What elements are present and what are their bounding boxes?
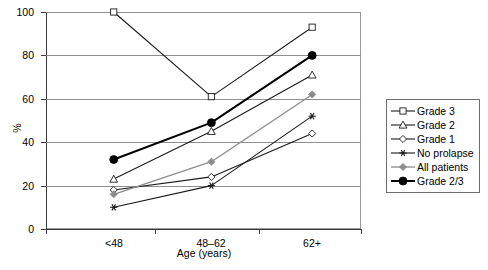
y-tick-mark (41, 55, 46, 56)
y-tick-mark (41, 186, 46, 187)
x-tick-mark (259, 229, 260, 234)
legend-item-grade-3: Grade 3 (390, 104, 475, 118)
y-tick-label: 20 (0, 181, 34, 191)
y-tick-label: 100 (0, 7, 34, 17)
legend-marker-open-square-icon (390, 104, 416, 118)
legend: Grade 3Grade 2Grade 1No prolapseAll pati… (386, 99, 480, 193)
y-tick-label: 40 (0, 137, 34, 147)
gridline-100 (46, 12, 361, 13)
data-point-open-square (400, 108, 406, 114)
legend-marker-solid-diamond-icon (390, 160, 416, 174)
y-tick-mark (41, 99, 46, 100)
legend-label: No prolapse (416, 146, 474, 160)
y-tick-label: 0 (0, 224, 34, 234)
legend-label: Grade 3 (416, 104, 455, 118)
data-point-solid-circle (399, 177, 407, 185)
x-tick-mark (46, 229, 47, 234)
data-point-solid-diamond (399, 163, 406, 170)
gridline-60 (46, 99, 361, 100)
legend-item-no-prolapse: No prolapse (390, 146, 475, 160)
y-axis-title: % (11, 123, 23, 132)
gridline-40 (46, 142, 361, 143)
data-point-asterisk (399, 150, 406, 156)
gridline-80 (46, 55, 361, 56)
y-tick-mark (41, 12, 46, 13)
legend-marker-solid-circle-icon (390, 174, 416, 188)
gridline-20 (46, 186, 361, 187)
x-axis-line (46, 229, 362, 230)
legend-item-grade-2-3: Grade 2/3 (390, 174, 475, 188)
legend-item-all-patients: All patients (390, 160, 475, 174)
y-tick-label: 80 (0, 50, 34, 60)
legend-label: All patients (416, 160, 468, 174)
y-axis-line (46, 12, 47, 230)
legend-marker-open-triangle-icon (390, 118, 416, 132)
legend-item-grade-2: Grade 2 (390, 118, 475, 132)
data-point-open-diamond (399, 135, 406, 142)
legend-marker-open-diamond-icon (390, 132, 416, 146)
chart-figure: 020406080100 <4848–6262+ % Age (years) G… (0, 0, 488, 270)
legend-label: Grade 2/3 (416, 174, 464, 188)
legend-label: Grade 2 (416, 118, 455, 132)
y-tick-label: 60 (0, 94, 34, 104)
legend-item-grade-1: Grade 1 (390, 132, 475, 146)
y-tick-mark (41, 142, 46, 143)
legend-marker-asterisk-icon (390, 146, 416, 160)
y-axis-title-wrap: % (12, 118, 21, 136)
x-tick-mark (155, 229, 156, 234)
x-axis-title: Age (years) (46, 247, 362, 259)
legend-label: Grade 1 (416, 132, 455, 146)
x-tick-mark (361, 229, 362, 234)
plot-area (46, 12, 361, 229)
